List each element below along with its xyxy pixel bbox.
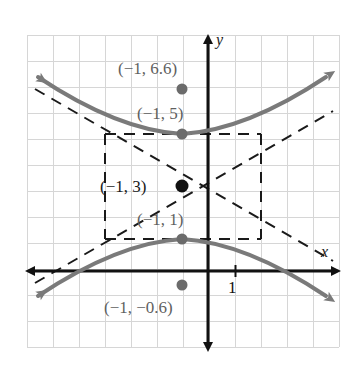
label-center: (−1, 3) <box>100 178 146 195</box>
label-focus-lower: (−1, −0.6) <box>104 299 173 316</box>
point-center <box>176 180 189 193</box>
x-axis-label: x <box>321 244 328 260</box>
point-focus-upper <box>177 84 188 95</box>
hyperbola-graph-figure: (−1, 6.6) (−1, 5) (−1, 3) (−1, 1) (−1, −… <box>0 0 349 368</box>
coordinate-plane-svg <box>0 0 349 368</box>
point-vertex-upper <box>177 129 188 140</box>
label-vertex-upper: (−1, 5) <box>137 105 183 122</box>
point-vertex-lower <box>177 234 188 245</box>
point-focus-lower <box>177 280 188 291</box>
y-axis-label: y <box>216 32 223 48</box>
label-focus-upper: (−1, 6.6) <box>118 60 177 77</box>
label-vertex-lower: (−1, 1) <box>137 211 183 228</box>
unit-tick-label: 1 <box>228 279 237 296</box>
